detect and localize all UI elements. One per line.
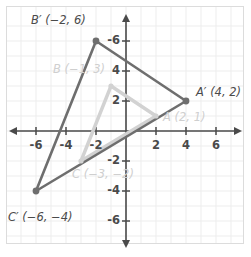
- y-tick-label: -6: [100, 35, 120, 47]
- x-tick-label: 2: [147, 140, 165, 152]
- y-tick-label: 2: [100, 95, 120, 107]
- vertex-label-a: A (2, 1): [163, 112, 205, 124]
- y-tick-label: -4: [100, 185, 120, 197]
- x-tick-label: -6: [27, 140, 45, 152]
- vertex-label-b-prime: B′ (−2, 6): [31, 15, 86, 27]
- y-tick-label: -2: [100, 155, 120, 167]
- x-tick-label: -2: [87, 140, 105, 152]
- x-axis-left-arrow: [9, 127, 17, 135]
- y-axis-down-arrow: [122, 240, 130, 248]
- y-axis-up-arrow: [122, 14, 130, 22]
- x-tick-label: 4: [177, 140, 195, 152]
- gridlines: [7, 7, 243, 243]
- vertex-dot-b: [108, 83, 113, 88]
- x-tick-label: 6: [207, 140, 225, 152]
- y-tick-label: -6: [100, 215, 120, 227]
- x-axis-right-arrow: [234, 127, 242, 135]
- x-tick-label: -4: [57, 140, 75, 152]
- vertex-label-c: C (−3, −2): [72, 169, 134, 181]
- coordinate-plane-figure: -6-4-2246 -642-2-4-6 B′ (−2, 6) A′ (4, 2…: [0, 0, 251, 257]
- vertex-dot-c-prime: [33, 188, 40, 195]
- vertex-dot-b-prime: [93, 38, 100, 45]
- vertex-dot-c: [78, 158, 83, 163]
- vertex-dot-a: [153, 113, 158, 118]
- vertex-label-a-prime: A′ (4, 2): [196, 87, 241, 99]
- vertex-label-b: B (−1, 3): [53, 64, 105, 76]
- vertex-dot-a-prime: [183, 98, 190, 105]
- vertex-label-c-prime: C′ (−6, −4): [8, 212, 73, 224]
